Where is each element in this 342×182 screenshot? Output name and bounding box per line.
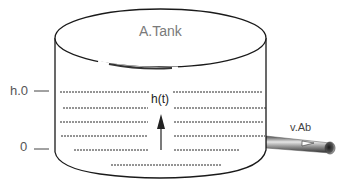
- height-label: h(t): [151, 92, 169, 106]
- tank-diagram: A.Tank h.0 0 h(t) v.Ab: [0, 0, 342, 182]
- level-0-label: 0: [20, 139, 27, 154]
- outlet-pipe: [266, 136, 335, 154]
- tank-label: A.Tank: [139, 23, 182, 39]
- outlet-label: v.Ab: [290, 121, 311, 133]
- level-h0-label: h.0: [10, 83, 28, 98]
